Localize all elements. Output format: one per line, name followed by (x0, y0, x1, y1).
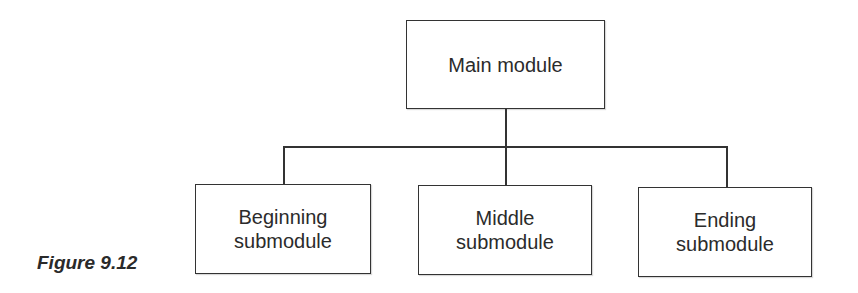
connector-root-vertical (505, 109, 507, 146)
connector-right-vertical (726, 146, 728, 187)
main-module-label: Main module (448, 53, 563, 77)
main-module-box: Main module (406, 20, 605, 109)
ending-submodule-label: Ending submodule (676, 208, 774, 256)
middle-submodule-label: Middle submodule (456, 206, 554, 254)
figure-caption: Figure 9.12 (37, 252, 137, 274)
ending-submodule-box: Ending submodule (638, 187, 812, 277)
connector-left-vertical (283, 146, 285, 184)
middle-submodule-box: Middle submodule (418, 185, 592, 275)
beginning-submodule-label: Beginning submodule (234, 205, 332, 253)
beginning-submodule-box: Beginning submodule (195, 184, 371, 274)
connector-middle-vertical (505, 146, 507, 185)
